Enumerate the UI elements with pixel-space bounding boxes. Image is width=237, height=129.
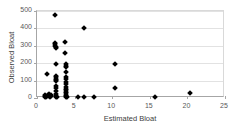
data-point	[62, 39, 68, 45]
y-axis-tick	[34, 11, 37, 12]
data-point	[188, 90, 194, 96]
x-axis-tick-label: 10	[107, 102, 115, 110]
data-point	[152, 94, 158, 100]
data-point	[81, 25, 87, 31]
x-axis-tick-label: 25	[220, 102, 228, 110]
y-axis-tick-label: 500	[8, 6, 32, 14]
data-point	[44, 71, 50, 77]
x-axis-tick	[187, 96, 188, 99]
y-axis-tick-label: 0	[8, 93, 32, 101]
x-axis-tick-label: 15	[145, 102, 153, 110]
x-axis-tick	[37, 96, 38, 99]
x-axis-tick-label: 5	[72, 102, 76, 110]
x-axis-tick-label: 0	[34, 102, 38, 110]
data-point	[53, 61, 59, 67]
x-axis-tick	[150, 96, 151, 99]
y-axis-tick	[34, 81, 37, 82]
data-point	[112, 85, 118, 91]
y-axis-tick-label: 400	[8, 23, 32, 31]
data-point	[75, 94, 81, 100]
gridline-y	[37, 28, 223, 29]
y-axis-tick	[34, 28, 37, 29]
y-axis-tick	[34, 46, 37, 47]
data-point	[91, 94, 97, 100]
y-axis-tick-label: 300	[8, 41, 32, 49]
data-point	[82, 94, 88, 100]
scatter-chart: Estimated Bloat Observed Bloat 010020030…	[0, 0, 237, 129]
x-axis-title: Estimated Bloat	[36, 114, 224, 123]
x-axis-tick	[225, 96, 226, 99]
y-axis-tick-label: 100	[8, 76, 32, 84]
plot-area	[36, 10, 224, 97]
y-axis-tick-label: 200	[8, 58, 32, 66]
x-axis-tick	[112, 96, 113, 99]
y-axis-tick	[34, 63, 37, 64]
data-point	[112, 61, 118, 67]
gridline-y	[37, 46, 223, 47]
gridline-y	[37, 11, 223, 12]
data-point	[62, 50, 68, 56]
data-point	[52, 12, 58, 18]
x-axis-tick-label: 20	[182, 102, 190, 110]
